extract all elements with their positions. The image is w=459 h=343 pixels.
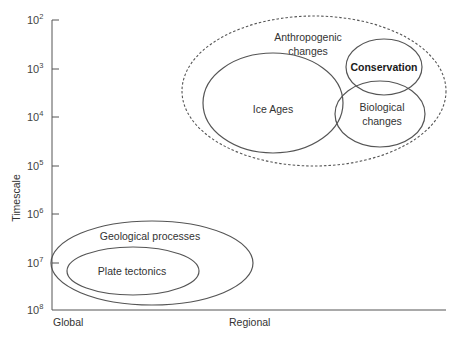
tick-label-1e6: 106	[27, 206, 43, 220]
plate-tectonics-label: Plate tectonics	[98, 265, 166, 277]
x-label-global: Global	[53, 316, 83, 328]
geological-processes-label: Geological processes	[100, 230, 200, 242]
tick-label-1e3: 103	[27, 61, 43, 75]
tick-label-1e4: 104	[27, 109, 43, 123]
y-axis-ticks	[52, 20, 59, 263]
biological-label-line2: changes	[362, 115, 402, 127]
anthropogenic-label-line1: Anthropogenic	[274, 31, 342, 43]
conservation-label: Conservation	[350, 61, 417, 73]
timescale-diagram: 102 103 104 105 106 107 108 Timescale Gl…	[0, 0, 459, 343]
biological-label-line1: Biological	[360, 101, 405, 113]
tick-label-1e2: 102	[27, 12, 43, 26]
x-label-regional: Regional	[229, 316, 270, 328]
tick-label-1e5: 105	[27, 158, 43, 172]
y-tick-labels: 102 103 104 105 106 107 108	[27, 12, 43, 316]
tick-label-1e7: 107	[27, 255, 43, 269]
biological-changes-ellipse	[335, 81, 425, 147]
ice-ages-label: Ice Ages	[253, 103, 293, 115]
tick-label-1e8: 108	[27, 302, 43, 316]
y-axis-title: Timescale	[10, 174, 22, 222]
